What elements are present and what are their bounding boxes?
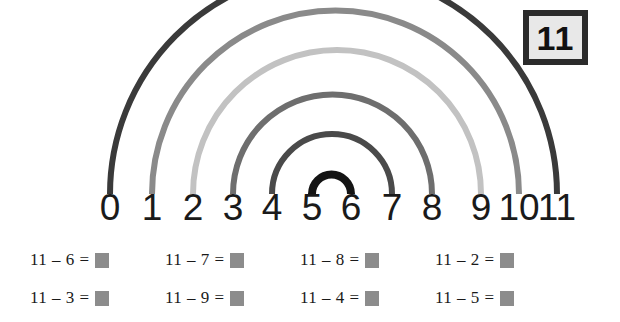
answer-box[interactable] [500, 253, 514, 268]
worksheet-canvas: 11 01234567891011 11 – 6 =11 – 7 =11 – 8… [0, 0, 620, 322]
answer-box[interactable] [365, 291, 379, 306]
number-line-label-0: 0 [100, 186, 121, 230]
equation-text: 11 – 2 = [435, 250, 495, 270]
number-line-label-8: 8 [422, 186, 443, 230]
equation-item: 11 – 3 = [30, 281, 109, 315]
number-line-label-2: 2 [183, 186, 204, 230]
number-line-label-11: 11 [538, 186, 576, 230]
number-badge-value: 11 [537, 21, 575, 55]
answer-box[interactable] [365, 253, 379, 268]
equation-item: 11 – 7 = [165, 243, 244, 277]
equation-text: 11 – 3 = [30, 288, 90, 308]
equation-row: 11 – 3 =11 – 9 =11 – 4 =11 – 5 = [0, 281, 620, 315]
answer-box[interactable] [95, 291, 109, 306]
number-line-label-7: 7 [382, 186, 403, 230]
number-line-label-10: 10 [498, 186, 539, 230]
equation-item: 11 – 2 = [435, 243, 514, 277]
number-line-label-4: 4 [262, 186, 283, 230]
answer-box[interactable] [95, 253, 109, 268]
number-line-label-9: 9 [471, 186, 492, 230]
equation-item: 11 – 6 = [30, 243, 109, 277]
equation-item: 11 – 8 = [300, 243, 379, 277]
number-badge: 11 [523, 10, 588, 65]
equation-text: 11 – 4 = [300, 288, 360, 308]
number-line-label-3: 3 [223, 186, 244, 230]
equation-list: 11 – 6 =11 – 7 =11 – 8 =11 – 2 = 11 – 3 … [0, 243, 620, 319]
answer-box[interactable] [230, 253, 244, 268]
equation-row: 11 – 6 =11 – 7 =11 – 8 =11 – 2 = [0, 243, 620, 277]
equation-item: 11 – 5 = [435, 281, 514, 315]
equation-text: 11 – 8 = [300, 250, 360, 270]
equation-item: 11 – 4 = [300, 281, 379, 315]
number-line-label-6: 6 [341, 186, 362, 230]
equation-text: 11 – 7 = [165, 250, 225, 270]
answer-box[interactable] [230, 291, 244, 306]
arc-3-8 [233, 95, 432, 195]
equation-text: 11 – 9 = [165, 288, 225, 308]
equation-text: 11 – 5 = [435, 288, 495, 308]
number-line: 01234567891011 [0, 186, 620, 230]
answer-box[interactable] [500, 291, 514, 306]
arc-1-10 [152, 10, 519, 194]
arc-4-7 [272, 134, 392, 194]
equation-text: 11 – 6 = [30, 250, 90, 270]
equation-item: 11 – 9 = [165, 281, 244, 315]
number-line-label-1: 1 [142, 186, 163, 230]
number-line-label-5: 5 [302, 186, 323, 230]
